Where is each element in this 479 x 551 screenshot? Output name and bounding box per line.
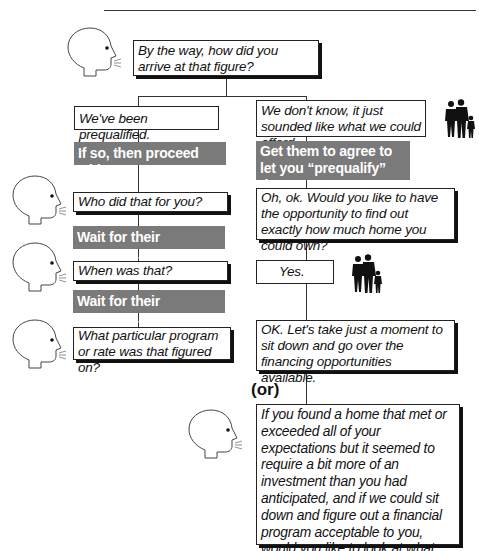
alternative-question-box: If you found a home that met or exceeded… <box>256 404 460 545</box>
opening-question-box: By the way, how did you arrive at that f… <box>133 40 319 76</box>
connector <box>138 96 307 97</box>
financing-followup-box: OK. Let's take just a moment to sit down… <box>256 320 455 371</box>
wait-response-instruction-2: Wait for their response. <box>73 290 225 313</box>
speaking-head-icon <box>187 408 243 462</box>
who-did-that-question: Who did that for you? <box>73 192 228 212</box>
when-was-that-question: When was that? <box>73 261 228 281</box>
speaking-head-icon <box>11 241 67 295</box>
prequalify-instruction: Get them to agree to let you “prequalify… <box>256 141 410 180</box>
dont-know-response-box: We don't know, it just sounded like what… <box>256 100 426 137</box>
connector <box>226 77 227 96</box>
family-silhouette-icon <box>443 99 477 139</box>
top-divider <box>104 10 476 11</box>
opportunity-question: Oh, ok. Would you like to have the oppor… <box>256 188 455 240</box>
or-label: (or) <box>251 380 279 400</box>
family-silhouette-icon <box>350 254 384 294</box>
wait-response-instruction: Wait for their response. <box>73 226 225 249</box>
speaking-head-icon <box>11 318 67 372</box>
prequalified-response-box: We've been prequalified. <box>74 106 219 130</box>
speaking-head-icon <box>66 26 122 80</box>
yes-answer-box: Yes. <box>256 260 334 284</box>
proceed-instruction: If so, then proceed with... <box>74 142 226 165</box>
speaking-head-icon <box>11 174 67 228</box>
program-rate-question: What particular program or rate was that… <box>73 327 231 360</box>
